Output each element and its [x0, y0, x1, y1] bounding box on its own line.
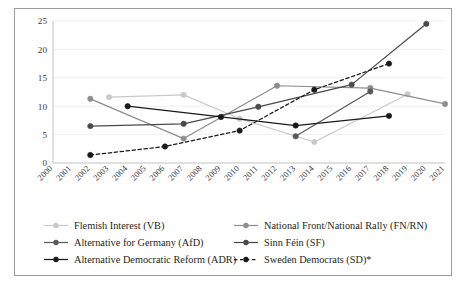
legend-item-label: Sinn Féin (SF) — [264, 237, 325, 248]
legend-key-icon — [43, 220, 69, 231]
x-axis-tick-label: 2004 — [110, 163, 130, 183]
y-axis-tick-label: 25 — [38, 16, 48, 26]
legend-key-icon — [233, 237, 259, 248]
data-point — [293, 134, 298, 139]
data-point — [106, 94, 111, 99]
x-axis-tick: 2006 — [147, 163, 167, 183]
x-axis-tick: 2002 — [73, 163, 92, 182]
series-line — [90, 86, 445, 139]
legend-row: Alternative Democratic Reform (ADR)Swede… — [15, 251, 453, 268]
x-axis-tick: 2015 — [315, 163, 334, 182]
x-axis-tick-label: 2007 — [166, 163, 186, 183]
legend-item-label: Alternative Democratic Reform (ADR) — [74, 254, 236, 265]
y-axis-tick-label: 5 — [42, 130, 47, 140]
data-point — [386, 113, 391, 118]
x-axis-tick-label: 2000 — [35, 163, 54, 182]
x-axis-tick: 2005 — [129, 163, 148, 182]
line-chart-svg: 0510152025200020012002200320042005200620… — [15, 9, 453, 219]
legend-key-icon — [43, 237, 69, 248]
x-axis-tick-label: 2006 — [147, 163, 167, 183]
x-axis-tick: 2012 — [259, 163, 278, 182]
data-point — [88, 152, 93, 157]
data-point — [386, 61, 391, 66]
data-point — [181, 92, 186, 97]
x-axis-tick-label: 2002 — [73, 163, 92, 182]
x-axis-tick-label: 2016 — [334, 163, 354, 183]
x-axis-tick: 2001 — [54, 163, 73, 182]
legend-marker — [53, 223, 58, 228]
x-axis-tick: 2009 — [203, 163, 222, 182]
x-axis-tick: 2008 — [185, 163, 204, 182]
series-5 — [88, 61, 392, 158]
legend-marker — [243, 223, 248, 228]
legend-key-icon — [233, 220, 259, 231]
data-point — [424, 21, 429, 26]
x-axis-tick: 2014 — [297, 163, 317, 183]
x-axis-tick-label: 2014 — [297, 163, 317, 183]
data-point — [88, 123, 93, 128]
x-axis-tick: 2007 — [166, 163, 186, 183]
x-axis-tick: 2018 — [371, 163, 390, 182]
y-axis-tick-label: 20 — [38, 45, 48, 55]
chart-legend: Flemish Interest (VB)National Front/Nati… — [15, 217, 453, 275]
x-axis-tick-label: 2012 — [259, 163, 278, 182]
x-axis-tick-label: 2019 — [390, 163, 409, 182]
series-3 — [88, 21, 429, 129]
x-axis-tick-label: 2003 — [91, 163, 110, 182]
y-axis-tick-label: 10 — [38, 102, 48, 112]
data-point — [349, 82, 354, 87]
x-axis-tick-label: 2015 — [315, 163, 334, 182]
x-axis-tick: 2017 — [353, 163, 373, 183]
legend-marker — [243, 257, 248, 262]
plot-area: 0510152025200020012002200320042005200620… — [15, 9, 453, 219]
chart-figure: 0510152025200020012002200320042005200620… — [14, 8, 452, 276]
legend-item-label: Alternative for Germany (AfD) — [74, 237, 204, 248]
legend-item[interactable]: Alternative for Germany (AfD) — [15, 237, 227, 248]
x-axis-tick-label: 2013 — [278, 163, 297, 182]
legend-key-icon — [43, 254, 69, 265]
series-line — [90, 64, 389, 155]
x-axis-tick: 2000 — [35, 163, 54, 182]
x-axis-tick: 2020 — [409, 163, 428, 182]
x-axis-tick-label: 2008 — [185, 163, 204, 182]
x-axis-tick-label: 2010 — [222, 163, 241, 182]
x-axis-tick: 2003 — [91, 163, 110, 182]
x-axis-tick: 2021 — [427, 163, 446, 182]
data-point — [256, 104, 261, 109]
data-point — [88, 96, 93, 101]
data-point — [293, 123, 298, 128]
data-point — [237, 128, 242, 133]
data-point — [368, 89, 373, 94]
x-axis-tick: 2016 — [334, 163, 354, 183]
y-axis-tick-label: 15 — [38, 73, 48, 83]
legend-item-label: Flemish Interest (VB) — [74, 220, 164, 231]
x-axis-tick-label: 2001 — [54, 163, 73, 182]
data-point — [312, 139, 317, 144]
data-point — [274, 83, 279, 88]
legend-item[interactable]: National Front/National Rally (FN/RN) — [227, 220, 453, 231]
legend-item[interactable]: Sinn Féin (SF) — [227, 237, 453, 248]
legend-key-icon — [233, 254, 259, 265]
legend-row: Flemish Interest (VB)National Front/Nati… — [15, 217, 453, 234]
series-1 — [88, 83, 448, 141]
x-axis-tick-label: 2017 — [353, 163, 373, 183]
x-axis-tick-label: 2020 — [409, 163, 428, 182]
x-axis-tick-label: 2011 — [241, 163, 260, 182]
legend-marker — [53, 240, 58, 245]
legend-row: Alternative for Germany (AfD)Sinn Féin (… — [15, 234, 453, 251]
data-point — [125, 104, 130, 109]
x-axis-tick-label: 2005 — [129, 163, 148, 182]
x-axis-tick-label: 2021 — [427, 163, 446, 182]
x-axis-tick: 2013 — [278, 163, 297, 182]
x-axis-tick: 2010 — [222, 163, 241, 182]
legend-item[interactable]: Flemish Interest (VB) — [15, 220, 227, 231]
legend-marker — [53, 257, 58, 262]
x-axis-tick: 2019 — [390, 163, 409, 182]
x-axis-tick-label: 2009 — [203, 163, 222, 182]
x-axis-tick-label: 2018 — [371, 163, 390, 182]
data-point — [162, 144, 167, 149]
x-axis-tick: 2011 — [241, 163, 260, 182]
legend-item-label: National Front/National Rally (FN/RN) — [264, 220, 427, 231]
legend-item[interactable]: Alternative Democratic Reform (ADR) — [15, 254, 227, 265]
legend-item[interactable]: Sweden Democrats (SD)* — [227, 254, 453, 265]
